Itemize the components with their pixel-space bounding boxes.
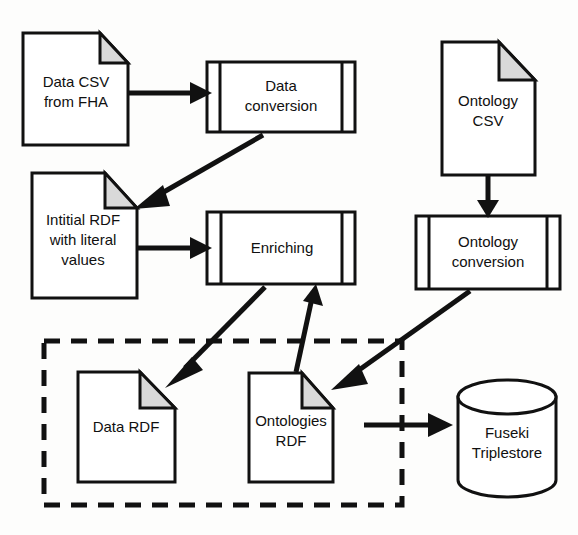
arrowhead-icon — [134, 185, 170, 209]
ontologies-rdf-fold-icon — [302, 373, 333, 408]
fuseki-label-line2: Triplestore — [472, 444, 542, 461]
initial-rdf-fold-icon — [105, 173, 137, 208]
edge-line — [352, 291, 470, 375]
data-conversion-label-line1: Data — [265, 77, 297, 94]
arrowhead-icon — [165, 357, 203, 388]
fuseki-label-line1: Fuseki — [485, 424, 529, 441]
node-data-conversion[interactable]: Data conversion — [207, 62, 355, 132]
enriching-label-line1: Enriching — [251, 239, 314, 256]
data-csv-label-line1: Data CSV — [43, 73, 110, 90]
initial-rdf-label-line2: with literal — [49, 231, 117, 248]
arrowhead-icon — [303, 284, 323, 306]
ontology-conversion-label-line2: conversion — [452, 253, 525, 270]
edge-data-csv-to-data-conversion — [129, 82, 212, 104]
edge-initial-rdf-to-enriching — [138, 237, 212, 259]
arrowhead-icon — [428, 413, 453, 437]
pipeline-diagram: Data CSV from FHA Data conversion Intiti… — [0, 0, 578, 535]
edge-ontologies-rdf-to-enriching — [296, 284, 323, 372]
data-csv-fold-icon — [100, 33, 128, 63]
diagram-canvas: Data CSV from FHA Data conversion Intiti… — [0, 0, 578, 535]
node-ontology-csv[interactable]: Ontology CSV — [442, 42, 535, 175]
node-data-rdf[interactable]: Data RDF — [78, 372, 175, 482]
edge-ontology-csv-to-ontology-conversion — [477, 176, 499, 218]
node-data-csv[interactable]: Data CSV from FHA — [23, 33, 128, 145]
node-enriching[interactable]: Enriching — [207, 212, 355, 284]
edge-line — [185, 287, 265, 368]
ontology-csv-label-line2: CSV — [473, 112, 504, 129]
node-fuseki-triplestore[interactable]: Fuseki Triplestore — [458, 380, 556, 497]
initial-rdf-label-line3: values — [61, 251, 104, 268]
node-initial-rdf[interactable]: Intitial RDF with literal values — [32, 173, 137, 298]
data-rdf-fold-icon — [140, 372, 175, 408]
fuseki-cylinder-top — [458, 380, 556, 414]
node-ontologies-rdf[interactable]: Ontologies RDF — [249, 373, 333, 482]
ontologies-rdf-label-line1: Ontologies — [255, 412, 327, 429]
initial-rdf-label-line1: Intitial RDF — [46, 211, 120, 228]
data-conversion-label-line2: conversion — [245, 97, 318, 114]
ontology-conversion-label-line1: Ontology — [458, 233, 519, 250]
edge-line — [155, 135, 263, 197]
edge-line — [296, 298, 312, 372]
edge-ontologies-rdf-to-fuseki — [364, 413, 453, 437]
ontology-csv-fold-icon — [499, 42, 535, 80]
data-rdf-label-line1: Data RDF — [93, 418, 160, 435]
ontologies-rdf-label-line2: RDF — [276, 432, 307, 449]
ontology-csv-label-line1: Ontology — [458, 92, 519, 109]
edge-data-conversion-to-initial-rdf — [134, 135, 263, 209]
data-csv-label-line2: from FHA — [44, 93, 108, 110]
node-ontology-conversion[interactable]: Ontology conversion — [416, 216, 560, 289]
